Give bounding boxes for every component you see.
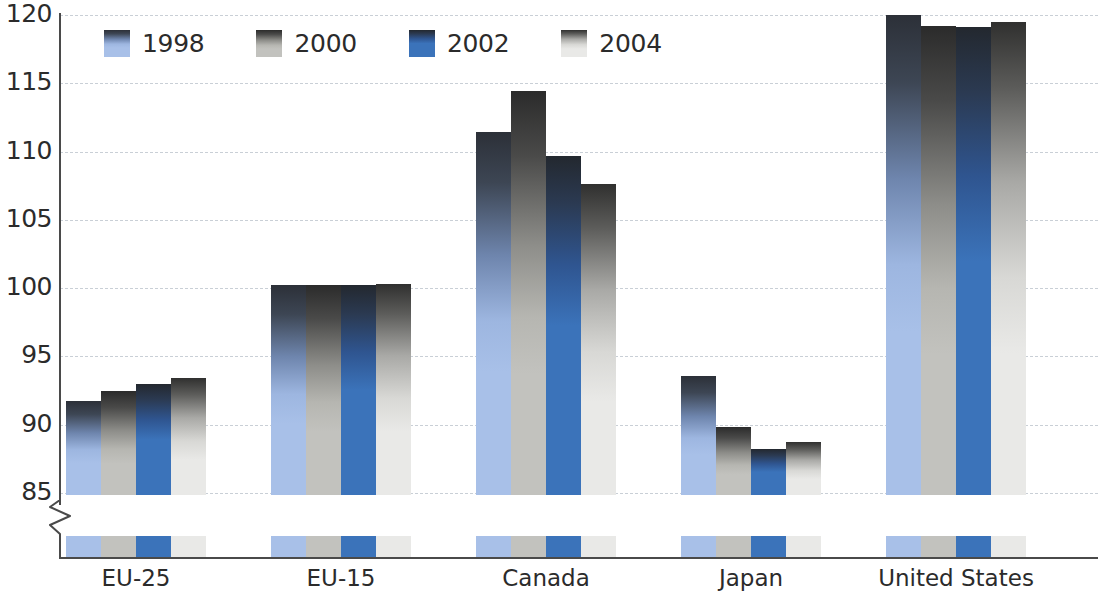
y-axis-label-115: 115 xyxy=(0,69,52,94)
bar-stub-canada-2002 xyxy=(546,536,581,558)
bar-eu-25-2004 xyxy=(171,378,206,495)
bar-stub-united-states-2000 xyxy=(921,536,956,558)
bar-stub-eu-15-2000 xyxy=(306,536,341,558)
bar-stub-japan-2002 xyxy=(751,536,786,558)
bar-stub-eu-25-2004 xyxy=(171,536,206,558)
bar-stub-canada-1998 xyxy=(476,536,511,558)
category-label-united-states: United States xyxy=(816,566,1096,591)
bar-eu-25-2002 xyxy=(136,384,171,495)
bar-stub-japan-1998 xyxy=(681,536,716,558)
bar-stub-united-states-2002 xyxy=(956,536,991,558)
y-axis-label-90: 90 xyxy=(0,411,52,436)
legend-swatch-2004 xyxy=(561,30,587,57)
bar-stub-canada-2000 xyxy=(511,536,546,558)
y-axis-label-95: 95 xyxy=(0,342,52,367)
bar-united-states-2004 xyxy=(991,22,1026,495)
bar-stub-eu-15-2002 xyxy=(341,536,376,558)
x-axis-line xyxy=(59,557,1098,559)
legend-item-2000[interactable]: 2000 xyxy=(256,30,356,57)
bar-japan-1998 xyxy=(681,376,716,495)
bar-stub-eu-25-2000 xyxy=(101,536,136,558)
y-axis-label-100: 100 xyxy=(0,274,52,299)
y-axis-label-110: 110 xyxy=(0,138,52,163)
bar-eu-15-2000 xyxy=(306,285,341,495)
bar-eu-15-2002 xyxy=(341,285,376,495)
bar-stub-united-states-2004 xyxy=(991,536,1026,558)
legend-swatch-2000 xyxy=(256,30,282,57)
legend: 1998200020022004 xyxy=(104,30,714,57)
bar-united-states-2002 xyxy=(956,27,991,495)
bar-stub-canada-2004 xyxy=(581,536,616,558)
chart-canvas: 859095100105110115120 EU-25EU-15CanadaJa… xyxy=(0,0,1098,598)
bar-stub-eu-25-2002 xyxy=(136,536,171,558)
bar-eu-25-2000 xyxy=(101,391,136,495)
legend-label-1998: 1998 xyxy=(142,31,204,56)
bar-canada-2000 xyxy=(511,91,546,495)
bar-canada-1998 xyxy=(476,132,511,495)
legend-item-2002[interactable]: 2002 xyxy=(409,30,509,57)
bar-eu-15-2004 xyxy=(376,284,411,495)
bar-stub-eu-15-1998 xyxy=(271,536,306,558)
bar-stub-japan-2000 xyxy=(716,536,751,558)
bar-stub-japan-2004 xyxy=(786,536,821,558)
bar-stub-eu-15-2004 xyxy=(376,536,411,558)
legend-item-2004[interactable]: 2004 xyxy=(561,30,661,57)
axis-break-icon xyxy=(44,500,78,540)
gridline-120 xyxy=(60,15,1098,16)
legend-label-2000: 2000 xyxy=(294,31,356,56)
y-axis-label-120: 120 xyxy=(0,1,52,26)
bar-eu-25-1998 xyxy=(66,401,101,495)
bar-eu-15-1998 xyxy=(271,285,306,495)
bar-stub-united-states-1998 xyxy=(886,536,921,558)
legend-swatch-2002 xyxy=(409,30,435,57)
bar-canada-2002 xyxy=(546,156,581,495)
legend-label-2002: 2002 xyxy=(447,31,509,56)
bar-united-states-1998 xyxy=(886,15,921,495)
bar-japan-2002 xyxy=(751,449,786,495)
legend-item-1998[interactable]: 1998 xyxy=(104,30,204,57)
y-axis-label-105: 105 xyxy=(0,206,52,231)
bar-japan-2000 xyxy=(716,427,751,495)
legend-swatch-1998 xyxy=(104,30,130,57)
y-axis-line-lower xyxy=(59,537,61,559)
y-axis-line xyxy=(59,13,61,505)
legend-label-2004: 2004 xyxy=(599,31,661,56)
bar-japan-2004 xyxy=(786,442,821,495)
bar-canada-2004 xyxy=(581,184,616,495)
bar-united-states-2000 xyxy=(921,26,956,495)
